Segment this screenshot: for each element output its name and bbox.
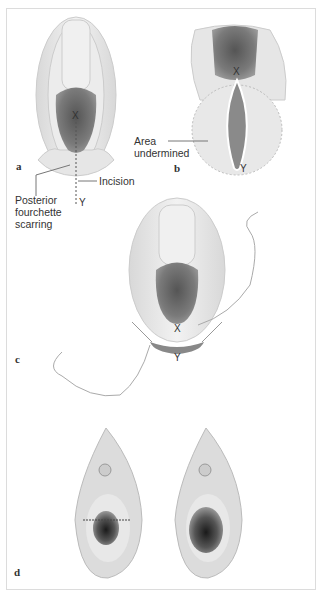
panel-a-x-mark: X — [72, 110, 79, 121]
scarring-label: Posterior fourchette scarring — [15, 194, 62, 230]
panel-b-y-mark: Y — [240, 163, 247, 174]
panel-d-drawing — [75, 428, 242, 578]
panel-b-label: b — [174, 162, 180, 174]
panel-c-drawing — [54, 198, 259, 396]
panel-c-label: c — [15, 353, 20, 365]
panel-b-x-mark: X — [233, 66, 240, 77]
area-undermined-label: Area undermined — [134, 135, 189, 159]
panel-a-label: a — [16, 160, 22, 172]
panel-c-x-mark: X — [174, 323, 181, 334]
panel-d-label: d — [14, 566, 20, 578]
panel-a-y-mark: Y — [79, 197, 86, 208]
incision-label: Incision — [99, 175, 135, 187]
panel-c-y-mark: Y — [174, 352, 181, 363]
illustration-canvas — [0, 0, 323, 595]
